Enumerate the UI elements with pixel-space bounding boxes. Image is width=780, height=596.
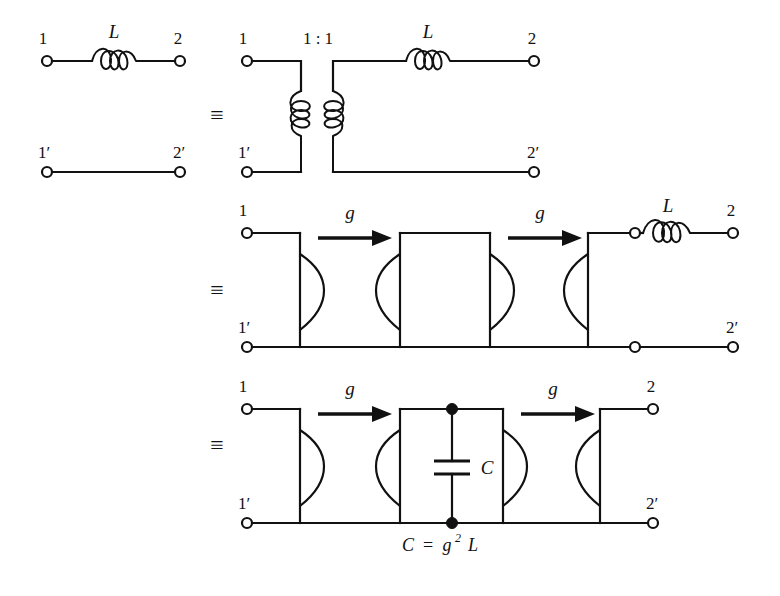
row2-label-2prime: 2′: [726, 318, 738, 337]
row2-terminal-2-node: [728, 228, 738, 238]
row2-gyrator1-arc: [300, 254, 324, 330]
row3-gyrator1-arc: [300, 430, 324, 506]
row1-right-inductor-label: L: [422, 21, 434, 42]
row3-gyration-label-2: g: [548, 378, 558, 399]
row1-left-label-1prime: 1′: [38, 143, 50, 162]
caption-rhs-factor: L: [467, 535, 478, 555]
circuit-diagram-svg: 1 2 1′ 2′ L ≡ 1 1′: [0, 0, 780, 596]
row3-gyration-arrow-1: [318, 406, 392, 422]
row3-terminal-2prime-node: [648, 518, 658, 528]
row3-gyrator2-left-arc: [376, 430, 400, 506]
caption-equals: =: [423, 535, 433, 555]
row1-left-terminal-2-node: [175, 56, 185, 66]
row2-arrow1-head: [372, 230, 392, 246]
row1-right-label-1: 1: [239, 29, 248, 48]
equivalence-sign-1: ≡: [210, 102, 224, 128]
row2-arrow2-head: [562, 230, 582, 246]
row2-gyration-label-2: g: [535, 202, 545, 223]
row2-label-2: 2: [727, 201, 736, 220]
row2-gyrator2-left-arc: [376, 254, 400, 330]
caption-lhs: C: [402, 535, 415, 555]
row2-gyrator3-arc: [564, 254, 588, 330]
row3-arrow2-head: [575, 406, 595, 422]
row3-terminal-1-node: [242, 404, 252, 414]
row1-right-secondary-top-wire: [333, 61, 406, 91]
row2-gyration-label-1: g: [345, 202, 355, 223]
row2-terminal-1prime-node: [242, 342, 252, 352]
row3-label-1prime: 1′: [238, 494, 250, 513]
caption-rhs-base: g: [443, 535, 452, 555]
row1-right-label-2: 2: [528, 29, 537, 48]
row1-right-terminal-1-node: [242, 56, 252, 66]
transformer-ratio-label: 1 : 1: [303, 29, 333, 48]
equivalence-sign-3: ≡: [210, 432, 224, 458]
row2-mid-terminal-bottom-node: [630, 342, 640, 352]
row1-right-label-2prime: 2′: [527, 143, 539, 162]
row-1-left-circuit: 1 2 1′ 2′ L: [38, 21, 185, 177]
equivalence-sign-2: ≡: [210, 277, 224, 303]
row3-terminal-2-node: [648, 404, 658, 414]
row2-gyrator2-right-arc: [490, 254, 514, 330]
row2-mid-terminal-top-node: [630, 228, 640, 238]
row3-label-1: 1: [239, 377, 248, 396]
row1-right-primary-top-wire: [247, 61, 301, 91]
figure-root: 1 2 1′ 2′ L ≡ 1 1′: [0, 0, 780, 596]
row3-label-2: 2: [647, 377, 656, 396]
caption-rhs-exponent: 2: [455, 531, 461, 545]
row1-right-label-1prime: 1′: [238, 143, 250, 162]
row-1-group: 1 2 1′ 2′ L ≡ 1 1′: [38, 21, 539, 177]
row3-capacitor-label: C: [481, 457, 494, 478]
row1-left-terminal-1-node: [42, 56, 52, 66]
row1-left-label-2prime: 2′: [173, 143, 185, 162]
row3-gyrator3-arc: [576, 430, 600, 506]
row2-output-inductor-coil: [643, 220, 733, 242]
row1-left-terminal-2prime-node: [175, 167, 185, 177]
row1-left-label-1: 1: [39, 29, 48, 48]
row3-terminal-1prime-node: [242, 518, 252, 528]
row1-left-label-2: 2: [174, 29, 183, 48]
row3-arrow1-head: [372, 406, 392, 422]
row3-capacitor-top-junction-dot: [447, 404, 458, 415]
row1-left-inductor-label: L: [108, 21, 120, 42]
row2-label-1prime: 1′: [238, 318, 250, 337]
row2-gyration-arrow-2: [508, 230, 582, 246]
row2-terminal-1-node: [242, 228, 252, 238]
row-1-right-circuit: 1 1′ 2 2′ 1 : 1 L: [238, 21, 539, 177]
row2-label-1: 1: [239, 201, 248, 220]
row3-gyration-arrow-2: [521, 406, 595, 422]
row-2-group: ≡ 1: [210, 195, 738, 352]
row2-inductor-label: L: [662, 195, 674, 216]
row1-right-terminal-2prime-node: [529, 167, 539, 177]
row1-left-terminal-1prime-node: [42, 167, 52, 177]
row1-left-inductor-coil: [92, 49, 180, 70]
row1-right-terminal-1prime-node: [242, 167, 252, 177]
row2-gyration-arrow-1: [318, 230, 392, 246]
row2-terminal-2prime-node: [728, 342, 738, 352]
row1-right-secondary-coil: [324, 91, 344, 172]
row3-gyration-label-1: g: [345, 378, 355, 399]
caption-formula: C = g 2 L: [402, 531, 478, 555]
row1-right-terminal-2-node: [529, 56, 539, 66]
row1-right-primary-coil: [290, 91, 310, 172]
row-3-group: ≡ C: [210, 377, 658, 555]
row3-gyrator2-right-arc: [503, 430, 527, 506]
row3-label-2prime: 2′: [646, 494, 658, 513]
row1-right-inductor-coil: [406, 49, 534, 70]
